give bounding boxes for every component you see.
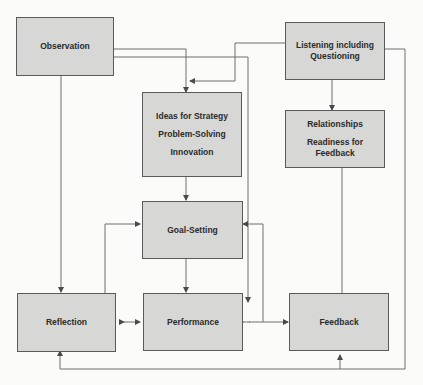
node-label: Performance (167, 317, 219, 328)
node-label: Questioning (310, 51, 360, 62)
node-label: Listening including (296, 40, 374, 51)
node-label: Reflection (46, 317, 87, 328)
node-reflection: Reflection (17, 293, 116, 352)
node-label: Feedback (315, 148, 354, 159)
node-label: Innovation (171, 147, 214, 158)
node-goal-setting: Goal-Setting (142, 201, 243, 259)
node-label: Feedback (319, 317, 358, 328)
node-label: Readiness for (307, 137, 363, 148)
node-label: Problem-Solving (158, 129, 226, 140)
node-feedback: Feedback (289, 293, 389, 351)
node-relationships: Relationships Readiness for Feedback (285, 110, 385, 168)
node-label: Goal-Setting (167, 225, 218, 236)
node-performance: Performance (143, 293, 243, 351)
node-ideas: Ideas for Strategy Problem-Solving Innov… (142, 92, 242, 177)
node-observation: Observation (16, 17, 114, 76)
node-listening: Listening including Questioning (285, 22, 385, 80)
node-label: Observation (40, 41, 90, 52)
node-label: Ideas for Strategy (156, 111, 228, 122)
node-label: Relationships (307, 119, 363, 130)
